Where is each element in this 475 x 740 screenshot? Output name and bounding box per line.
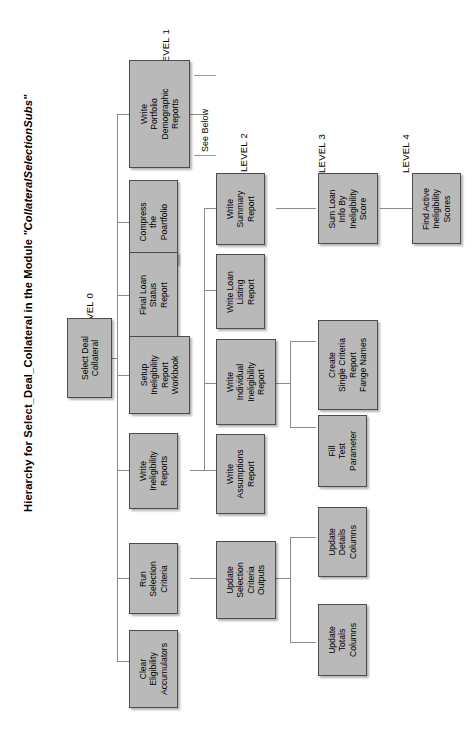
see-below-rule <box>194 75 216 76</box>
connector-run-selection-to-update-outputs <box>190 578 216 579</box>
connector-level3-stub <box>290 341 316 342</box>
node-sum-loan-info-by-ineligibility-score[interactable]: Sum Loan Info By Ineligibility Score <box>318 173 378 244</box>
node-label: Run Selection Criteria <box>138 561 169 596</box>
connector-parent-stub <box>190 470 204 471</box>
node-write-portfolio-demographic-reports[interactable]: Write Portfolio Demographic Reports <box>129 60 190 168</box>
connector-level1-stub <box>117 470 129 471</box>
connector-spine-level2 <box>204 208 205 471</box>
connector-spine-level3a <box>290 341 291 427</box>
node-label: Final Loan Status Report <box>138 275 169 315</box>
node-label: Write Ineligibility Reports <box>138 451 169 491</box>
node-select-deal-collateral[interactable]: Select Deal Collateral <box>67 318 112 398</box>
node-label: Find Active Ineligibility Scores <box>421 187 452 229</box>
node-label: Update Selection Criteria Outputs <box>225 562 267 597</box>
page-title-prefix: Hierarchy for Select_Deal_Collateral in … <box>22 236 34 512</box>
level-label-level4: LEVEL 4 <box>400 134 411 173</box>
node-label: Select Deal Collateral <box>79 336 100 380</box>
node-clear-eligibility-accumulators[interactable]: Clear Eligibility Accumulators <box>129 630 178 708</box>
connector-summary-to-sumloan <box>276 208 316 209</box>
node-run-selection-criteria[interactable]: Run Selection Criteria <box>129 543 178 614</box>
connector-level3-stub <box>290 642 316 643</box>
node-write-ineligibility-reports[interactable]: Write Ineligibility Reports <box>129 433 178 509</box>
connector-level2-stub <box>204 208 216 209</box>
connector-level1-stub <box>117 295 129 296</box>
node-label: Clear Eligibility Accumulators <box>138 643 169 695</box>
connector-level2-stub <box>204 470 216 471</box>
node-find-active-ineligibility-scores[interactable]: Find Active Ineligibility Scores <box>412 173 461 244</box>
connector-level2-stub <box>204 383 216 384</box>
connector-level3-stub <box>290 537 316 538</box>
node-write-individual-ineligibility-report[interactable]: Write Individual Ineligibility Report <box>216 339 276 425</box>
page-title-module: "CollateralSelectionSubs" <box>22 95 34 236</box>
node-label: Sum Loan Info By Ineligibility Score <box>327 189 369 229</box>
node-setup-ineligibility-report-workbook[interactable]: Setup Ineligibility Report Workbook <box>129 336 190 414</box>
node-fill-test-parameter[interactable]: Fill Test Parameter <box>318 415 367 487</box>
level-label-level3: LEVEL 3 <box>316 134 327 173</box>
node-label: Write Loan Listing Report <box>225 271 256 312</box>
connector-parent-stub <box>276 383 290 384</box>
see-below-note: See Below <box>200 109 210 152</box>
connector-level1-stub <box>117 661 129 662</box>
node-label: Write Individual Ineligibility Report <box>225 362 267 402</box>
connector-level1-stub <box>117 222 129 223</box>
see-below-rule <box>194 155 216 156</box>
node-label: Compress the Poartfolio <box>138 202 169 241</box>
level-label-level2: LEVEL 2 <box>238 133 249 172</box>
connector-spine-level3b <box>290 537 291 642</box>
connector-root-stub <box>111 358 118 359</box>
connector-level1-stub <box>117 114 129 115</box>
node-final-loan-status-report[interactable]: Final Loan Status Report <box>129 252 178 338</box>
node-label: Fill Test Parameter <box>327 431 358 471</box>
node-label: Write Assumptions Report <box>225 449 256 498</box>
connector-spine-level1 <box>117 114 118 662</box>
node-label: Setup Ineligibility Report Workbook <box>139 355 181 395</box>
connector-level1-stub <box>117 375 129 376</box>
node-create-single-criteria-report-fange-names[interactable]: Create Single Criteria Report Fange Name… <box>318 320 378 410</box>
connector-level1-stub <box>117 578 129 579</box>
node-label: Update Details Columns <box>327 525 358 559</box>
hierarchy-diagram: Hierarchy for Select_Deal_Collateral in … <box>0 0 475 740</box>
connector-sumloan-to-findactive <box>380 208 412 209</box>
page-title: Hierarchy for Select_Deal_Collateral in … <box>22 95 34 512</box>
connector-parent-stub <box>276 578 290 579</box>
node-update-selection-criteria-outputs[interactable]: Update Selection Criteria Outputs <box>216 541 276 619</box>
connector-level3-stub <box>290 427 316 428</box>
node-write-assumptions-report[interactable]: Write Assumptions Report <box>216 434 265 514</box>
node-update-totals-columns[interactable]: Update Totals Columns <box>318 604 367 676</box>
node-write-summary-report[interactable]: Write Summary Report <box>216 173 265 245</box>
connector-level2-stub <box>204 290 216 291</box>
node-label: Create Single Criteria Report Fange Name… <box>327 338 369 392</box>
node-update-details-columns[interactable]: Update Details Columns <box>318 507 367 577</box>
node-label: Write Summary Report <box>225 191 256 228</box>
node-label: Update Totals Columns <box>327 623 358 657</box>
node-write-loan-listing-report[interactable]: Write Loan Listing Report <box>216 254 265 329</box>
node-label: Write Portfolio Demographic Reports <box>139 88 181 139</box>
